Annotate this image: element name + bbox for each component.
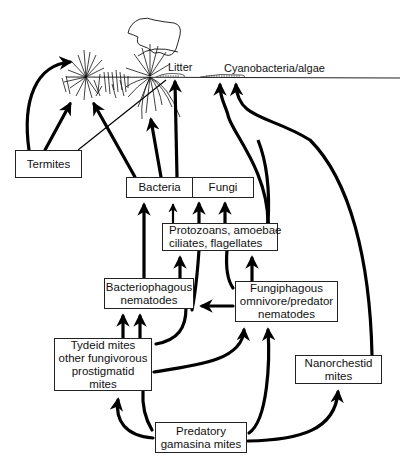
litter-label: Litter: [168, 61, 192, 73]
node-predatory-line-1: Predatory: [176, 425, 226, 438]
node-tydeid-line-2: other fungivorous: [59, 352, 148, 365]
node-termites: Termites: [15, 150, 82, 178]
node-fungiphagous-line-3: nematodes: [258, 308, 315, 321]
node-fungi: Fungi: [192, 178, 253, 197]
node-fungi-label: Fungi: [209, 181, 238, 194]
plant-roots-icon: [126, 44, 180, 119]
node-termites-line-1: Termites: [27, 158, 70, 171]
node-protozoans-line-1: Protozoans, amoebae: [169, 224, 282, 237]
node-bacteria: Bacteria: [127, 178, 192, 197]
node-nanorchestid-line-1: Nanorchestid: [305, 357, 373, 370]
node-predatory-line-2: gamasina mites: [161, 438, 242, 451]
grass-tuft-icon: [62, 50, 128, 100]
node-fungiphagous-nematodes: Fungiphagous omnivore/predator nematodes: [235, 281, 338, 322]
node-tydeid-line-3: prostigmatid: [72, 365, 135, 378]
node-nanorchestid-mites: Nanorchestid mites: [295, 355, 382, 384]
node-bacteriophagous-line-2: nematodes: [121, 294, 178, 307]
node-protozoans-line-2: ciliates, flagellates: [169, 237, 262, 250]
litter-patch: [156, 73, 185, 77]
node-tydeid-line-4: mites: [89, 378, 116, 391]
node-tydeid-line-1: Tydeid mites: [71, 339, 136, 352]
node-bacteriophagous-line-1: Bacteriophagous: [106, 281, 192, 294]
node-predatory-gamasina-mites: Predatory gamasina mites: [155, 422, 247, 453]
node-bacteria-label: Bacteria: [138, 181, 180, 194]
node-bacteria-fungi: Bacteria Fungi: [126, 177, 254, 198]
cyanobacteria-patch: [200, 74, 245, 77]
node-protozoans: Protozoans, amoebae ciliates, flagellate…: [162, 223, 278, 251]
soil-surface-line: [66, 77, 400, 78]
node-fungiphagous-line-1: Fungiphagous: [250, 282, 323, 295]
node-tydeid-mites: Tydeid mites other fungivorous prostigma…: [54, 338, 152, 391]
node-fungiphagous-line-2: omnivore/predator: [240, 295, 333, 308]
node-nanorchestid-line-2: mites: [325, 370, 352, 383]
node-bacteriophagous-nematodes: Bacteriophagous nematodes: [104, 278, 194, 309]
cyanobacteria-label: Cyanobacteria/algae: [224, 62, 325, 74]
plant-canopy-icon: [128, 18, 180, 56]
